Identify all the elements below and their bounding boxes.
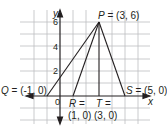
x-axis-label: x — [147, 96, 154, 107]
coordinate-diagram: y x 0 2 4 6 P = (3, 6) Q = (-1, 0) R = (… — [0, 0, 167, 129]
grid — [20, 10, 150, 124]
axes — [26, 10, 150, 124]
point-T-label-top: T = — [96, 98, 111, 109]
y-axis-down-arrow-icon — [58, 117, 63, 124]
point-Q-label: Q = (-1, 0) — [1, 85, 47, 96]
origin-label: 0 — [55, 97, 60, 107]
y-tick-4: 4 — [53, 42, 58, 52]
point-R-label-bottom: (1, 0) — [68, 110, 91, 121]
y-axis-up-arrow-icon — [58, 10, 63, 17]
y-tick-6: 6 — [53, 17, 58, 27]
point-S-label: S = (5, 0) — [126, 85, 167, 96]
point-R-label-top: R = — [69, 98, 85, 109]
y-tick-2: 2 — [53, 66, 58, 76]
point-P-label: P = (3, 6) — [98, 10, 139, 21]
point-T-label-bottom: (3, 0) — [94, 110, 117, 121]
